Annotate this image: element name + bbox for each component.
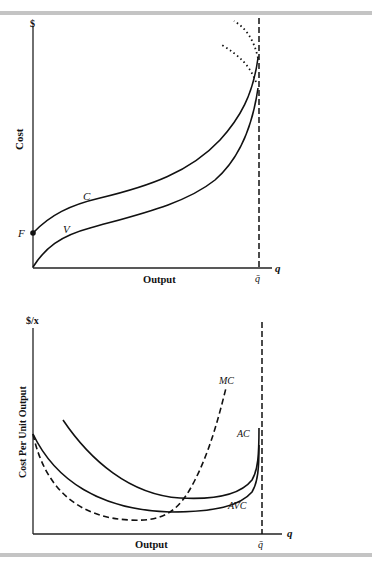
total-cost-extension — [234, 21, 258, 58]
variable-cost-extension — [222, 45, 256, 82]
average-cost-label: AC — [236, 428, 250, 439]
top-x-symbol: q — [275, 262, 281, 274]
bottom-y-symbol: $/x — [26, 315, 39, 326]
bottom-y-label: Cost Per Unit Output — [17, 386, 28, 478]
variable-cost-curve — [33, 88, 258, 267]
bottom-x-label: Output — [135, 539, 168, 550]
average-variable-cost-label: AVC — [227, 500, 247, 511]
marginal-cost-curve — [33, 388, 226, 520]
variable-cost-label: V — [63, 223, 71, 235]
average-cost-curve — [63, 420, 259, 498]
bottom-x-symbol: q — [287, 527, 293, 539]
bottom-capacity-label: q̄ — [258, 539, 263, 550]
total-cost-label: C — [83, 190, 91, 202]
total-cost-curve — [33, 58, 258, 233]
top-capacity-label: q̄ — [255, 273, 260, 284]
bottom-panel: $/x Cost Per Unit Output Output q q̄ MC … — [17, 315, 293, 550]
cost-curves-figure: $ Cost Output q q̄ C V F $/x Cost Per Un… — [0, 0, 384, 570]
fixed-cost-dot — [30, 230, 36, 236]
marginal-cost-label: MC — [218, 375, 234, 386]
top-panel: $ Cost Output q q̄ C V F — [13, 18, 281, 285]
top-y-label: Cost — [13, 128, 25, 150]
average-variable-cost-curve — [33, 434, 259, 512]
top-y-symbol: $ — [30, 18, 35, 29]
fixed-cost-label: F — [17, 227, 25, 239]
top-x-label: Output — [143, 274, 176, 285]
